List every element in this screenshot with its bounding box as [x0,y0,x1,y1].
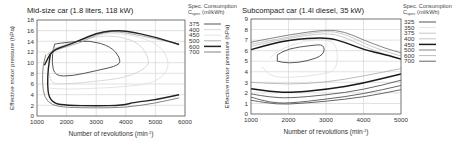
y-tick-label: 12 [27,48,34,55]
plot-grid [251,19,401,114]
x-tick-label: 2000 [282,116,296,123]
contour-line-600 [48,55,179,106]
y-tick-label: 7 [245,36,249,43]
x-tick-label: 4000 [119,118,133,125]
x-axis-label: Number of revolutions (min-1) [68,130,153,139]
y-tick-label: 2 [31,102,35,109]
legend-label-700: 700 [404,57,415,64]
y-tick-label: 4 [31,91,35,98]
contour-plot-mid-size: 024681012141618100020003000400050006000E… [0,0,225,143]
y-axis-label: Effective motor pressure (hPa) [223,25,230,109]
plot-axes: 012345678910002000300040005000Effective … [223,15,408,136]
y-tick-label: 1 [245,100,249,107]
y-tick-label: 3 [245,79,249,86]
y-axis-label: Effective motor pressure (hPa) [8,26,15,110]
x-tick-label: 1000 [30,118,44,125]
contour-plot-subcompact: 012345678910002000300040005000Effective … [225,0,450,143]
y-tick-label: 9 [245,15,249,22]
y-tick-label: 2 [245,89,249,96]
plot-series [43,31,180,108]
chart-panel-subcompact-car: Subcompact car (1.4l diesel, 35 kW) Spec… [225,0,450,143]
x-tick-label: 5000 [149,118,163,125]
x-tick-label: 6000 [178,118,192,125]
x-tick-label: 1000 [244,116,258,123]
y-tick-label: 6 [245,47,249,54]
y-tick-label: 4 [245,68,249,75]
y-tick-label: 6 [31,80,35,87]
y-tick-label: 8 [245,26,249,33]
y-tick-label: 5 [245,57,249,64]
plot-legend: 375400450500600700 [189,20,221,55]
contour-line-325 [277,45,324,63]
plot-legend: 325350375400450500600700 [404,18,436,64]
y-tick-label: 18 [27,16,34,23]
y-tick-label: 10 [27,59,34,66]
chart-panel-mid-size-car: Mid-size car (1.8 liters, 118 kW) Spec. … [0,0,225,143]
y-tick-label: 8 [31,70,35,77]
contour-line-450 [50,33,168,89]
legend-label-700: 700 [189,48,200,55]
x-tick-label: 5000 [394,116,408,123]
x-tick-label: 4000 [357,116,371,123]
y-tick-label: 14 [27,38,34,45]
y-tick-label: 16 [27,27,34,34]
x-axis-label: Number of revolutions (min-1) [283,128,368,137]
x-tick-label: 3000 [319,116,333,123]
x-tick-label: 3000 [89,118,103,125]
contour-line-500 [47,32,179,55]
x-tick-label: 2000 [60,118,74,125]
